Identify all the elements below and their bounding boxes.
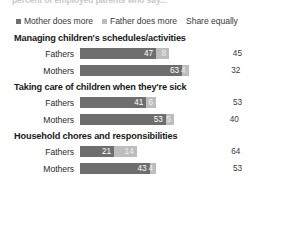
chart-segment-mother: 47 (80, 48, 156, 59)
cut-off-headline: percent of employed parents who say... (12, 0, 292, 11)
chart-segment-value-equal: 45 (217, 48, 242, 59)
legend-item-father[interactable]: Father does more (102, 16, 177, 26)
chart-bar-track: 53540 (80, 114, 298, 125)
chart-row-label: Fathers (0, 147, 80, 157)
chart-row: Mothers43453 (0, 161, 298, 176)
stacked-bar-chart: Managing children's schedules/activities… (0, 33, 298, 180)
chart-segment-value-equal: 32 (215, 65, 240, 76)
chart-bar-track: 41653 (80, 97, 298, 108)
chart-bar-track: 47845 (80, 48, 298, 59)
chart-segment-value-mother: 47 (144, 48, 156, 59)
chart-segment-value-mother: 53 (154, 114, 166, 125)
legend-swatch-icon-mother (16, 19, 21, 24)
chart-row-label: Mothers (0, 164, 80, 174)
chart-group: Household chores and responsibilitiesFat… (0, 131, 298, 176)
chart-row: Mothers53540 (0, 112, 298, 127)
chart-row: Fathers211464 (0, 144, 298, 159)
chart-segment-father: 6 (146, 97, 156, 108)
chart-segment-value-equal: 64 (215, 146, 240, 157)
chart-group: Taking care of children when they're sic… (0, 82, 298, 127)
chart-segment-mother: 41 (80, 97, 146, 108)
chart-group-title: Taking care of children when they're sic… (14, 82, 298, 92)
chart-segment-mother: 63 (80, 65, 182, 76)
chart-row: Mothers63432 (0, 63, 298, 78)
chart-legend: Mother does moreFather does moreShare eq… (16, 14, 294, 28)
chart-group-title: Managing children's schedules/activities (14, 33, 298, 43)
chart-segment-father: 8 (156, 48, 169, 59)
chart-segment-value-father: 5 (166, 114, 174, 125)
chart-row-label: Fathers (0, 98, 80, 108)
chart-bar-track: 211464 (80, 146, 298, 157)
chart-segment-father: 14 (114, 146, 137, 157)
chart-segment-value-equal: 40 (214, 114, 239, 125)
chart-segment-mother: 53 (80, 114, 166, 125)
chart-segment-equal: 53 (156, 163, 242, 174)
chart-segment-mother: 21 (80, 146, 114, 157)
chart-segment-equal: 64 (137, 146, 241, 157)
chart-bar-track: 43453 (80, 163, 298, 174)
chart-group: Managing children's schedules/activities… (0, 33, 298, 78)
chart-segment-value-equal: 53 (217, 163, 242, 174)
chart-row-label: Mothers (0, 66, 80, 76)
legend-label-mother: Mother does more (24, 16, 93, 26)
legend-label-father: Father does more (110, 16, 177, 26)
chart-segment-equal: 53 (156, 97, 242, 108)
chart-segment-equal: 40 (174, 114, 239, 125)
chart-segment-value-mother: 21 (102, 146, 114, 157)
chart-segment-equal: 32 (189, 65, 241, 76)
chart-segment-value-equal: 53 (217, 97, 242, 108)
chart-segment-value-mother: 41 (134, 97, 146, 108)
chart-segment-value-father: 6 (149, 97, 157, 108)
chart-segment-equal: 45 (169, 48, 242, 59)
chart-bar-track: 63432 (80, 65, 298, 76)
legend-label-equal: Share equally (186, 16, 238, 26)
chart-row: Fathers47845 (0, 46, 298, 61)
chart-segment-value-father: 8 (162, 48, 170, 59)
chart-segment-value-father: 14 (125, 146, 137, 157)
chart-row: Fathers41653 (0, 95, 298, 110)
chart-segment-value-father: 4 (181, 65, 189, 76)
chart-segment-father: 5 (166, 114, 174, 125)
chart-row-label: Mothers (0, 115, 80, 125)
chart-row-label: Fathers (0, 49, 80, 59)
legend-item-equal[interactable]: Share equally (186, 16, 238, 26)
chart-segment-value-father: 4 (149, 163, 157, 174)
legend-swatch-icon-father (102, 19, 107, 24)
chart-segment-mother: 43 (80, 163, 150, 174)
chart-group-title: Household chores and responsibilities (14, 131, 298, 141)
cut-off-headline-text: percent of employed parents who say... (12, 0, 292, 6)
legend-item-mother[interactable]: Mother does more (16, 16, 93, 26)
